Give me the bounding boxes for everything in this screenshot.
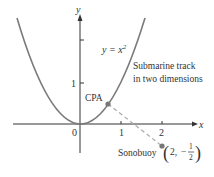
sonobuoy-label: Sonobuoy — [118, 148, 157, 158]
sonobuoy-coord-close-paren: ) — [195, 143, 201, 164]
curve-equation-base: y = x — [101, 44, 123, 55]
cpa-point — [105, 101, 110, 106]
sonobuoy-coord-open-paren: ( — [163, 143, 169, 164]
curve-equation-exponent: 2 — [123, 43, 127, 51]
x-tick-label-1: 1 — [119, 127, 124, 138]
curve-equation-label: y = x2 — [101, 43, 127, 55]
y-axis-label: y — [75, 4, 81, 15]
parabola-curve — [17, 18, 145, 124]
sonobuoy-frac-num: 1 — [189, 142, 193, 151]
sonobuoy-coord-x: 2, — [170, 147, 177, 157]
submarine-track-diagram: y x 0 1 2 1 y = x2 Submarine track in tw… — [0, 0, 214, 177]
y-tick-label-1: 1 — [71, 78, 76, 89]
curve-description-line1: Submarine track — [133, 61, 196, 71]
y-axis-arrow-icon — [78, 14, 83, 21]
sonobuoy-frac-den: 2 — [189, 153, 193, 162]
sonobuoy-coord-minus: − — [181, 147, 186, 157]
origin-label: 0 — [72, 127, 77, 138]
x-axis-label: x — [198, 119, 204, 130]
cpa-label: CPA — [85, 93, 103, 103]
x-axis-arrow-icon — [192, 122, 198, 127]
curve-description-line2: in two dimensions — [133, 74, 203, 84]
x-tick-label-2: 2 — [159, 127, 164, 138]
cpa-to-sonobuoy-dashed-line — [108, 104, 162, 146]
